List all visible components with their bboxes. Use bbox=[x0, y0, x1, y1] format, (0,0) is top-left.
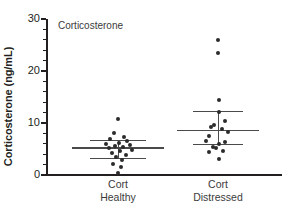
data-point bbox=[110, 151, 114, 155]
data-point bbox=[220, 127, 224, 131]
data-point bbox=[217, 98, 221, 102]
data-point bbox=[209, 125, 213, 129]
data-point bbox=[124, 153, 128, 157]
data-point bbox=[116, 171, 120, 175]
data-point bbox=[104, 142, 108, 146]
data-point bbox=[217, 142, 221, 146]
plot-area bbox=[46, 19, 274, 175]
data-point bbox=[125, 139, 129, 143]
y-tick-label: 20 bbox=[0, 65, 40, 76]
x-tick-label-line: Cort bbox=[158, 178, 278, 191]
data-point bbox=[214, 146, 218, 150]
data-point bbox=[221, 149, 225, 153]
data-point bbox=[112, 131, 116, 135]
error-bar-vertical bbox=[218, 111, 219, 144]
chart-figure: Corticosterone (ng/mL) 0102030 Corticost… bbox=[0, 0, 292, 213]
y-tick-label: 10 bbox=[0, 117, 40, 128]
x-tick-label-line: Distressed bbox=[158, 191, 278, 204]
data-point bbox=[207, 134, 211, 138]
data-point bbox=[217, 110, 221, 114]
data-point bbox=[226, 130, 230, 134]
data-point bbox=[130, 148, 134, 152]
data-point bbox=[216, 38, 220, 42]
data-point bbox=[117, 141, 121, 145]
y-axis-label: Corticosterone (ng/mL) bbox=[0, 0, 17, 213]
data-point bbox=[216, 51, 220, 55]
data-point bbox=[111, 162, 115, 166]
data-point bbox=[120, 158, 124, 162]
data-point bbox=[204, 139, 208, 143]
y-tick-label: 30 bbox=[0, 13, 40, 24]
data-point bbox=[118, 149, 122, 153]
error-bar-cap-lower bbox=[90, 158, 146, 159]
x-tick-label: CortDistressed bbox=[158, 178, 278, 203]
y-tick-label: 0 bbox=[0, 169, 40, 180]
data-point bbox=[223, 119, 227, 123]
data-point bbox=[223, 140, 227, 144]
data-point bbox=[107, 146, 111, 150]
data-point bbox=[119, 165, 123, 169]
data-point bbox=[116, 117, 120, 121]
data-point bbox=[207, 150, 211, 154]
data-point bbox=[217, 157, 221, 161]
